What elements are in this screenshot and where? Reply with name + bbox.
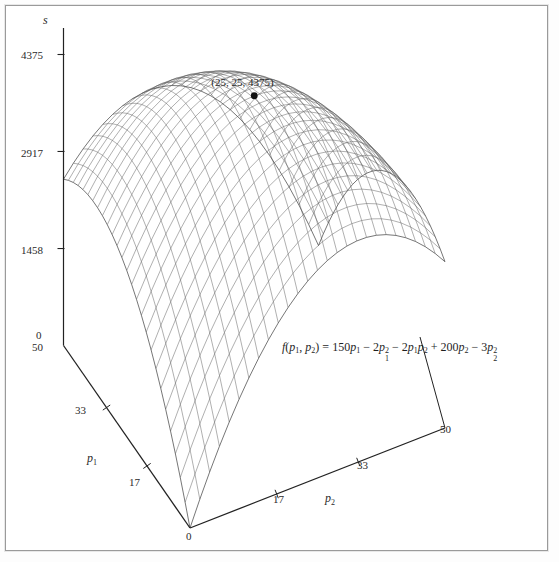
surface-mesh: [64, 71, 446, 528]
eq-t1-sub: 1: [356, 346, 360, 355]
p1tick-0: 0: [186, 531, 192, 542]
p2tick-50-text: 50: [440, 423, 451, 435]
eq-op4: −: [471, 340, 478, 354]
ztick-4375-text: 4375: [21, 49, 43, 61]
axis-label-p1-sub: 1: [93, 458, 97, 467]
eq-t3-sub2: 2: [424, 346, 428, 355]
axis-label-p2: p2: [325, 492, 335, 507]
peak-point-label-text: (25, 25, 4375): [211, 76, 273, 88]
eq-op1: −: [363, 340, 370, 354]
eq-t5-sub: 2: [493, 354, 497, 363]
p1tick-17: 17: [129, 477, 140, 488]
eq-op3: +: [431, 340, 438, 354]
ztick-2917: 2917: [21, 148, 43, 159]
axis-label-p1: p1: [87, 452, 97, 467]
peak-marker: [251, 92, 258, 99]
p1tick-50: 50: [32, 342, 43, 353]
p1tick-17-text: 17: [129, 476, 140, 488]
p2tick-50: 50: [440, 424, 451, 435]
ztick-1458: 1458: [21, 245, 43, 256]
eq-t5-sup: 2: [493, 346, 497, 355]
eq-close: ): [315, 340, 319, 354]
p1tick-33: 33: [75, 405, 86, 416]
eq-t2-sup: 2: [385, 346, 389, 355]
axis-label-p2-sub: 2: [331, 498, 335, 507]
eq-t2-sub: 1: [385, 354, 389, 363]
ztick-0-text: 0: [36, 329, 42, 341]
ztick-1458-text: 1458: [21, 244, 43, 256]
eq-t4-coef: 200: [440, 340, 458, 354]
equation-label: f(p1, p2) = 150p1 − 2p12 − 2p1p2 + 200p2…: [282, 340, 497, 355]
figure-page: s 4375 2917 1458 0 50 33 17 0 p1 17 33 5…: [0, 0, 559, 562]
ztick-4375: 4375: [21, 50, 43, 61]
axis-label-s-text: s: [43, 13, 48, 27]
eq-t4-sub: 2: [464, 346, 468, 355]
p1tick-50-text: 50: [32, 341, 43, 353]
ztick-2917-text: 2917: [21, 147, 43, 159]
p2tick-17: 17: [273, 494, 284, 505]
eq-t1-coef: 150: [332, 340, 350, 354]
peak-point-label: (25, 25, 4375): [211, 77, 273, 88]
p2tick-17-text: 17: [273, 493, 284, 505]
p1tick-0-text: 0: [186, 530, 192, 542]
p2tick-33: 33: [357, 460, 368, 471]
surface-plot-svg: [0, 0, 559, 562]
eq-equals: =: [322, 340, 329, 354]
axis-label-s: s: [43, 14, 48, 26]
p2tick-33-text: 33: [357, 459, 368, 471]
ztick-0: 0: [36, 330, 42, 341]
p1tick-33-text: 33: [75, 404, 86, 416]
eq-op2: −: [392, 340, 399, 354]
